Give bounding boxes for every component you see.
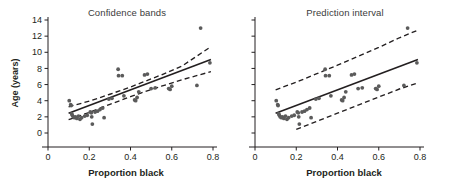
figure-scatter-confidence-prediction: Confidence bands Age (years) Proportion … <box>0 0 457 182</box>
x-tick-label: 0 <box>252 152 257 162</box>
y-tick-label: 10 <box>32 47 42 57</box>
data-point <box>110 96 114 100</box>
y-tick-label: 4 <box>37 96 42 106</box>
plot-area-confidence: 0246810121400.20.40.60.8 <box>0 0 228 182</box>
y-tick-label: 0 <box>37 128 42 138</box>
data-point <box>101 106 105 110</box>
data-point <box>377 84 381 88</box>
data-point <box>135 96 139 100</box>
data-point <box>360 86 364 90</box>
x-tick-label: 0.4 <box>124 152 137 162</box>
data-point <box>375 88 379 92</box>
plot-area-prediction: 00.20.40.60.8 <box>229 0 457 182</box>
regression-line <box>69 60 211 114</box>
panel-confidence-bands: Confidence bands Age (years) Proportion … <box>0 0 228 182</box>
data-point <box>208 61 212 65</box>
data-point <box>342 96 346 100</box>
data-points <box>67 26 211 126</box>
data-point <box>309 116 313 120</box>
data-point <box>116 67 120 71</box>
data-point <box>149 87 153 91</box>
regression-line <box>276 60 418 114</box>
data-point <box>356 87 360 91</box>
y-tick-label: 14 <box>32 15 42 25</box>
data-point <box>317 96 321 100</box>
data-point <box>117 74 121 78</box>
panel-prediction-interval: Prediction interval Proportion black 00.… <box>229 0 457 182</box>
data-point <box>170 84 174 88</box>
data-point <box>327 74 331 78</box>
data-point <box>344 90 348 94</box>
x-tick-label: 0 <box>45 152 50 162</box>
data-point <box>308 106 312 110</box>
x-tick-label: 0.6 <box>165 152 178 162</box>
data-point <box>69 104 73 108</box>
data-point <box>296 111 300 115</box>
data-point <box>297 115 301 119</box>
data-point <box>90 122 94 126</box>
band-upper <box>69 47 211 107</box>
x-tick-label: 0.4 <box>331 152 344 162</box>
band-upper <box>276 30 418 90</box>
data-point <box>153 86 157 90</box>
x-tick-label: 0.8 <box>207 152 220 162</box>
data-point <box>324 74 328 78</box>
data-point <box>85 113 89 117</box>
data-point <box>89 111 93 115</box>
data-point <box>415 61 419 65</box>
y-tick-label: 12 <box>32 31 42 41</box>
data-point <box>67 99 71 103</box>
x-tick-label: 0.6 <box>372 152 385 162</box>
data-point <box>329 94 333 98</box>
data-point <box>102 116 106 120</box>
y-tick-label: 8 <box>37 64 42 74</box>
data-point <box>146 72 150 76</box>
data-point <box>402 83 406 87</box>
data-point <box>199 26 203 30</box>
data-points <box>274 26 418 126</box>
data-point <box>406 26 410 30</box>
data-point <box>168 88 172 92</box>
data-point <box>122 94 126 98</box>
x-tick-label: 0.2 <box>83 152 96 162</box>
data-point <box>292 113 296 117</box>
y-tick-label: 6 <box>37 80 42 90</box>
data-point <box>90 115 94 119</box>
data-point <box>276 104 280 108</box>
data-point <box>323 67 327 71</box>
data-point <box>274 99 278 103</box>
y-tick-label: 2 <box>37 112 42 122</box>
data-point <box>195 83 199 87</box>
data-point <box>353 72 357 76</box>
x-tick-label: 0.2 <box>290 152 303 162</box>
x-tick-label: 0.8 <box>414 152 427 162</box>
data-point <box>297 122 301 126</box>
data-point <box>137 90 141 94</box>
data-point <box>120 74 124 78</box>
